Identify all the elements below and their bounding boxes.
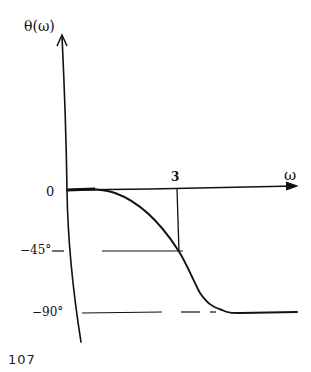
x-axis-label: ω (284, 166, 296, 184)
page-number: 107 (8, 352, 36, 367)
tick-3-label: 3 (171, 170, 179, 184)
minus45-label: −45° (20, 243, 51, 257)
y-axis-label: θ(ω) (24, 18, 55, 34)
origin-thick (67, 189, 95, 190)
minus90-label: −90° (32, 305, 63, 319)
zero-label: 0 (46, 184, 54, 199)
minus90-line (82, 312, 162, 313)
omega-3-line (177, 189, 179, 252)
